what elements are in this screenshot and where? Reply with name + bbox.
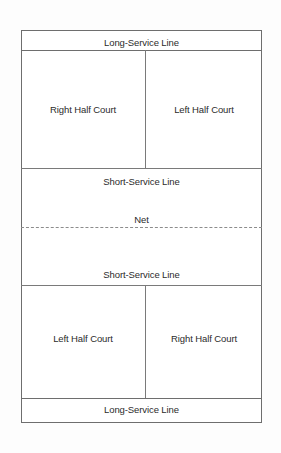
label-bottom-left-half-court: Left Half Court bbox=[21, 334, 145, 344]
label-short-service-line-top: Short-Service Line bbox=[21, 177, 262, 187]
short-service-line-bottom bbox=[21, 285, 262, 286]
short-service-line-top bbox=[21, 168, 262, 169]
long-service-line-bottom bbox=[21, 398, 262, 399]
label-net: Net bbox=[21, 215, 262, 225]
label-long-service-line-top: Long-Service Line bbox=[21, 38, 262, 48]
label-top-left-half-court: Right Half Court bbox=[21, 105, 145, 115]
net-line-dashed bbox=[21, 227, 262, 228]
long-service-line-top bbox=[21, 50, 262, 51]
label-bottom-right-half-court: Right Half Court bbox=[146, 334, 262, 344]
badminton-court-diagram: Long-Service Line Right Half Court Left … bbox=[0, 0, 281, 453]
label-short-service-line-bottom: Short-Service Line bbox=[21, 270, 262, 280]
label-long-service-line-bottom: Long-Service Line bbox=[21, 405, 262, 415]
label-top-right-half-court: Left Half Court bbox=[146, 105, 262, 115]
